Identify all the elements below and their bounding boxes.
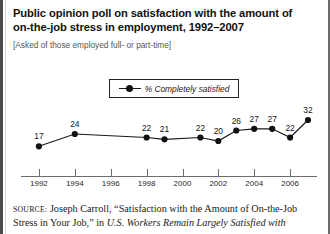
data-point-label: 27 xyxy=(268,114,277,124)
x-axis-tick xyxy=(290,169,291,176)
x-axis-tick-label: 1996 xyxy=(102,179,120,188)
chart-legend: % Completely satisfied xyxy=(109,79,239,98)
x-axis-tick xyxy=(218,169,219,176)
data-point-label: 22 xyxy=(142,123,151,133)
data-point-label: 20 xyxy=(214,126,223,136)
figure-subtitle: [Asked of those employed full- or part-t… xyxy=(13,40,313,51)
data-point xyxy=(269,126,275,132)
source-publication-title: U.S. Workers Remain Largely Satisfied wi… xyxy=(107,217,286,228)
figure-title-line-1: Public opinion poll on satisfaction with… xyxy=(13,6,313,20)
data-point xyxy=(72,131,78,137)
data-point xyxy=(161,136,167,142)
x-axis-tick xyxy=(254,169,255,176)
x-axis-tick-label: 2004 xyxy=(245,179,263,188)
source-text-part-2: Stress in Your Job,” in xyxy=(13,217,107,228)
x-axis-tick xyxy=(75,169,76,176)
data-point-label: 21 xyxy=(160,124,169,134)
data-point-label: 32 xyxy=(303,105,312,115)
x-axis-tick-label: 1994 xyxy=(66,179,84,188)
data-point xyxy=(144,134,150,140)
x-axis-tick xyxy=(147,169,148,176)
data-point xyxy=(305,117,311,123)
data-point xyxy=(251,126,257,132)
figure-content: Public opinion poll on satisfaction with… xyxy=(9,0,322,234)
x-axis-tick-label: 2002 xyxy=(209,179,227,188)
data-point xyxy=(287,134,293,140)
source-text-part-1: Joseph Carroll, “Satisfaction with the A… xyxy=(47,203,297,214)
data-point xyxy=(215,138,221,144)
x-axis-tick-label: 2000 xyxy=(174,179,192,188)
data-point-label: 22 xyxy=(285,123,294,133)
x-axis-tick xyxy=(39,169,40,176)
x-axis-tick xyxy=(183,169,184,176)
source-label: SOURCE: xyxy=(13,205,47,214)
data-point-label: 17 xyxy=(34,131,43,141)
legend-item-label: % Completely satisfied xyxy=(145,84,230,94)
page-left-inner-rule xyxy=(5,0,6,234)
figure-title: Public opinion poll on satisfaction with… xyxy=(13,6,313,34)
data-point-label: 24 xyxy=(70,119,79,129)
data-point xyxy=(233,127,239,133)
data-point xyxy=(36,143,42,149)
figure-title-line-2: on-the-job stress in employment, 1992–20… xyxy=(13,20,313,34)
x-axis-tick-label: 1998 xyxy=(138,179,156,188)
x-axis-tick-label: 2006 xyxy=(281,179,299,188)
x-axis-tick-label: 1992 xyxy=(30,179,48,188)
data-point-label: 27 xyxy=(250,114,259,124)
data-point-label: 26 xyxy=(232,116,241,126)
data-point-label: 22 xyxy=(196,123,205,133)
chart-plot-area: 19921994199619982000200220042006 1724222… xyxy=(9,100,322,192)
figure-page: Public opinion poll on satisfaction with… xyxy=(0,0,330,234)
legend-item-completely-satisfied: % Completely satisfied xyxy=(119,84,230,94)
data-point xyxy=(197,134,203,140)
page-left-edge xyxy=(0,0,3,234)
x-axis-tick xyxy=(111,169,112,176)
legend-line-marker-icon xyxy=(119,84,141,93)
source-note: SOURCE: Joseph Carroll, “Satisfaction wi… xyxy=(13,203,319,229)
